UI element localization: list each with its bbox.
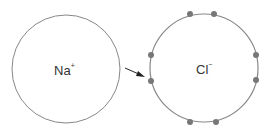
chloride-ion-label: Cl− <box>196 62 212 77</box>
chlorine-charge: − <box>208 61 212 68</box>
electron-transfer-arrow-icon <box>125 68 145 77</box>
sodium-ion-label: Na+ <box>54 63 75 78</box>
sodium-charge: + <box>71 62 75 69</box>
sodium-symbol: Na <box>54 63 71 78</box>
chlorine-symbol: Cl <box>196 62 208 77</box>
diagram-canvas <box>0 0 266 132</box>
